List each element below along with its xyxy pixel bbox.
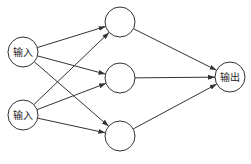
node-label: 输入 bbox=[13, 109, 33, 121]
output-node-out: 输出 bbox=[215, 62, 245, 92]
edge-h2-to-out bbox=[135, 77, 215, 78]
node-label: 输入 bbox=[13, 46, 33, 58]
input-node-in1: 输入 bbox=[8, 37, 38, 67]
edge-h3-to-out bbox=[133, 84, 217, 129]
edge-in1-to-h1 bbox=[37, 26, 105, 47]
edge-h1-to-out bbox=[133, 29, 216, 71]
hidden-node-h3 bbox=[105, 121, 135, 151]
node-circle bbox=[105, 121, 135, 151]
edge-in2-to-h3 bbox=[38, 118, 106, 133]
edge-in2-to-h2 bbox=[37, 83, 106, 109]
edge-in1-to-h2 bbox=[37, 56, 105, 74]
nodes-group: 输入输入输出 bbox=[8, 7, 245, 151]
node-label: 输出 bbox=[220, 71, 240, 83]
input-node-in2: 输入 bbox=[8, 100, 38, 130]
node-circle bbox=[105, 63, 135, 93]
neural-network-diagram: 输入输入输出 bbox=[0, 0, 251, 164]
node-circle bbox=[105, 7, 135, 37]
hidden-node-h1 bbox=[105, 7, 135, 37]
hidden-node-h2 bbox=[105, 63, 135, 93]
